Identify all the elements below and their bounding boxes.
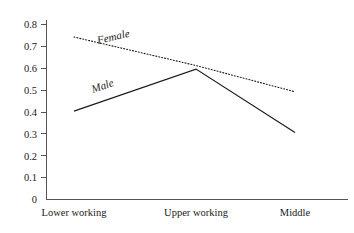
chart-canvas: 0.8 0.7 0.6 0.5 0.4 0.3 0.2 0.1 0 Female… <box>0 0 354 233</box>
y-tick-label-0.2: 0.2 <box>24 151 37 162</box>
y-tick-label-0.4: 0.4 <box>24 107 38 118</box>
y-tick-label-0.3: 0.3 <box>24 129 37 140</box>
series-label-male: Male <box>89 76 115 95</box>
y-tick-label-0.5: 0.5 <box>24 85 37 96</box>
line-chart: 0.8 0.7 0.6 0.5 0.4 0.3 0.2 0.1 0 Female… <box>0 0 354 233</box>
y-tick-label-0.8: 0.8 <box>24 19 37 30</box>
y-tick-label-0.7: 0.7 <box>24 41 37 52</box>
y-tick-label-0.1: 0.1 <box>24 172 37 183</box>
x-category-label-middle: Middle <box>280 207 311 218</box>
x-category-label-lower-working: Lower working <box>41 207 107 218</box>
series-label-female: Female <box>95 27 131 46</box>
y-tick-label-0.6: 0.6 <box>24 63 37 74</box>
y-tick-label-0: 0 <box>32 194 37 205</box>
x-category-label-upper-working: Upper working <box>164 207 229 218</box>
